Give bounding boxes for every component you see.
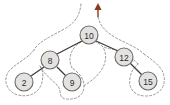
tree-node-left-child[interactable]: 8 bbox=[41, 51, 59, 69]
tree-node-right-child[interactable]: 12 bbox=[115, 48, 133, 66]
node-circle[interactable] bbox=[115, 48, 133, 66]
tree-node-leaf-leftmost[interactable]: 2 bbox=[15, 73, 33, 91]
contour-path-left-ascent bbox=[34, 4, 81, 50]
tree-node-root[interactable]: 10 bbox=[80, 26, 98, 44]
node-circle[interactable] bbox=[41, 51, 59, 69]
node-circle[interactable] bbox=[80, 26, 98, 44]
edge-12-15 bbox=[130, 63, 142, 75]
edge-10-12 bbox=[96, 41, 118, 51]
binary-tree-diagram: 10 8 12 2 9 15 bbox=[0, 0, 170, 105]
edge-8-9 bbox=[57, 67, 66, 76]
entry-arrow-head bbox=[94, 3, 101, 10]
node-circle[interactable] bbox=[15, 73, 33, 91]
tree-nodes-group: 10 8 12 2 9 15 bbox=[15, 26, 157, 91]
node-circle[interactable] bbox=[139, 72, 157, 90]
node-circle[interactable] bbox=[63, 73, 81, 91]
tree-node-leaf-inner-left[interactable]: 9 bbox=[63, 73, 81, 91]
tree-node-leaf-rightmost[interactable]: 15 bbox=[139, 72, 157, 90]
edge-10-8 bbox=[57, 41, 82, 54]
entry-arrow-icon bbox=[94, 3, 101, 17]
tree-canvas-svg: 10 8 12 2 9 15 bbox=[0, 0, 170, 105]
